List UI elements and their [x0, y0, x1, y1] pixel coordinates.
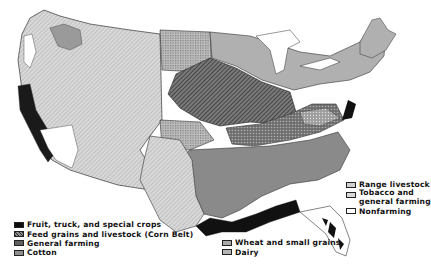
legend-label: Dairy: [235, 248, 259, 257]
legend-left: Fruit, truck, and special crops Feed gra…: [14, 220, 193, 258]
legend-label: Nonfarming: [359, 207, 412, 216]
legend-label: Feed grains and livestock (Corn Belt): [27, 230, 193, 239]
legend-right: Range livestock Tobacco and general farm…: [346, 180, 431, 216]
legend-item-general: General farming: [14, 239, 193, 248]
legend-label: Wheat and small grains: [235, 238, 341, 247]
region-cotton: [178, 132, 350, 218]
range-swatch-icon: [346, 182, 356, 188]
legend-label-line2: general farming: [359, 197, 431, 206]
legend-label: Fruit, truck, and special crops: [27, 220, 161, 229]
general-farming-swatch-icon: [14, 240, 24, 246]
legend-item-dairy: Dairy: [222, 247, 341, 256]
legend-item-fruit: Fruit, truck, and special crops: [14, 220, 193, 229]
legend-item-cotton: Cotton: [14, 248, 193, 257]
legend-item-tobacco: Tobacco and general farming: [346, 189, 431, 206]
legend-item-cornbelt: Feed grains and livestock (Corn Belt): [14, 229, 193, 238]
legend-middle: Wheat and small grains Dairy: [222, 238, 341, 257]
dairy-swatch-icon: [222, 249, 232, 255]
region-atlantic-coast: [342, 100, 356, 120]
nonfarming-swatch-icon: [346, 208, 356, 214]
cotton-swatch-icon: [14, 250, 24, 256]
region-new-england: [360, 18, 396, 58]
tobacco-swatch-icon: [346, 192, 356, 198]
wheat-swatch-icon: [222, 240, 232, 246]
legend-label: General farming: [27, 239, 100, 248]
cornbelt-swatch-icon: [14, 231, 24, 237]
region-west-range: [18, 10, 162, 190]
legend-item-wheat: Wheat and small grains: [222, 238, 341, 247]
legend-label: Cotton: [27, 248, 57, 257]
fruit-swatch-icon: [14, 222, 24, 228]
legend-item-nonfarming: Nonfarming: [346, 207, 431, 216]
